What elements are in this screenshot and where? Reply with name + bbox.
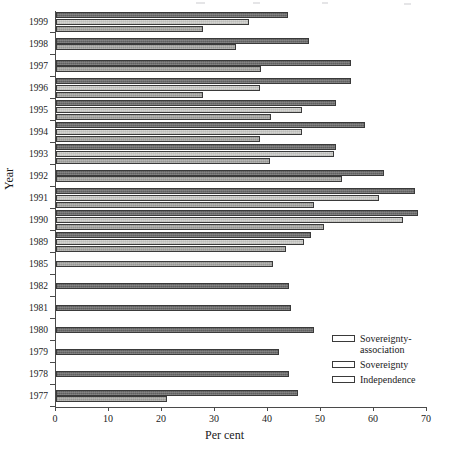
x-axis-title: Per cent	[0, 428, 449, 443]
x-axis-label-40: 40	[262, 413, 272, 424]
y-axis-tick	[50, 120, 55, 121]
bar-1990-indep	[56, 224, 324, 230]
y-axis-label-1979: 1979	[0, 347, 48, 357]
bar-1995-s-assoc	[56, 100, 336, 106]
x-axis-tick-40	[267, 407, 268, 411]
y-axis-tick	[50, 32, 55, 33]
y-axis-label-1997: 1997	[0, 61, 48, 71]
chart-legend: Sovereignty- associationSovereigntyIndep…	[332, 333, 448, 389]
x-axis-tick-30	[214, 407, 215, 411]
bar-1996-sov	[56, 85, 260, 91]
bar-1999-sov	[56, 19, 249, 25]
x-axis-tick-0	[55, 407, 56, 411]
y-axis-label-1981: 1981	[0, 303, 48, 313]
y-axis-label-1989: 1989	[0, 237, 48, 247]
bar-1985-indep	[56, 261, 273, 267]
x-axis-tick-70	[426, 407, 427, 411]
bar-1978-s-assoc	[56, 371, 289, 377]
bar-1990-sov	[56, 217, 403, 223]
y-axis-tick	[50, 208, 55, 209]
bar-1999-indep	[56, 26, 203, 32]
x-axis-tick-50	[320, 407, 321, 411]
legend-label-independence: Independence	[360, 374, 416, 385]
y-axis-label-1985: 1985	[0, 259, 48, 269]
y-axis-label-1977: 1977	[0, 391, 48, 401]
y-axis-tick	[50, 164, 55, 165]
legend-label-sovereignty-association: Sovereignty- association	[360, 333, 412, 355]
bar-1996-s-assoc	[56, 78, 351, 84]
bar-1995-indep	[56, 114, 271, 120]
y-axis-label-1990: 1990	[0, 215, 48, 225]
x-axis-label-50: 50	[315, 413, 325, 424]
x-axis-label-70: 70	[421, 413, 431, 424]
y-axis-tick	[50, 76, 55, 77]
bar-1977-indep	[56, 396, 167, 402]
y-axis-label-1999: 1999	[0, 17, 48, 27]
y-axis-tick	[50, 384, 55, 385]
bar-chart: 1999199819971996199519941993199219911990…	[0, 0, 449, 449]
y-axis-tick	[50, 340, 55, 341]
y-axis-label-1996: 1996	[0, 83, 48, 93]
bar-1992-s-assoc	[56, 170, 384, 176]
bar-1991-sov	[56, 195, 379, 201]
legend-item-sovereignty-association: Sovereignty- association	[332, 333, 448, 355]
y-axis-label-1982: 1982	[0, 281, 48, 291]
bar-1999-s-assoc	[56, 12, 288, 18]
bar-1993-sov	[56, 151, 334, 157]
y-axis-tick	[50, 252, 55, 253]
bar-1979-s-assoc	[56, 349, 279, 355]
scan-artifact	[322, 2, 328, 4]
legend-item-independence: Independence	[332, 374, 448, 385]
y-axis-tick	[50, 230, 55, 231]
y-axis-title: Year	[2, 168, 17, 190]
bar-1990-s-assoc	[56, 210, 418, 216]
legend-label-sovereignty: Sovereignty	[360, 359, 408, 370]
legend-item-sovereignty: Sovereignty	[332, 359, 448, 370]
bar-1992-indep	[56, 176, 342, 182]
bar-1997-s-assoc	[56, 60, 351, 66]
bar-1994-sov	[56, 129, 302, 135]
y-axis-tick	[50, 296, 55, 297]
y-axis-label-1995: 1995	[0, 105, 48, 115]
y-axis-label-1993: 1993	[0, 149, 48, 159]
bar-1991-s-assoc	[56, 188, 415, 194]
bar-1991-indep	[56, 202, 314, 208]
legend-swatch-sovereignty	[332, 361, 355, 368]
x-axis-label-60: 60	[368, 413, 378, 424]
y-axis-label-1978: 1978	[0, 369, 48, 379]
legend-swatch-independence	[332, 376, 355, 383]
legend-swatch-sovereignty-association	[332, 335, 355, 342]
y-axis-tick	[50, 186, 55, 187]
bar-1981-s-assoc	[56, 305, 291, 311]
bar-1994-indep	[56, 136, 260, 142]
y-axis-tick	[50, 274, 55, 275]
bar-1998-indep	[56, 44, 236, 50]
bar-1989-indep	[56, 246, 286, 252]
x-axis-label-10: 10	[103, 413, 113, 424]
bar-1998-s-assoc	[56, 38, 309, 44]
y-axis-tick	[50, 362, 55, 363]
x-axis-label-0: 0	[53, 413, 58, 424]
y-axis-tick	[50, 142, 55, 143]
bar-1982-s-assoc	[56, 283, 289, 289]
y-axis-label-1998: 1998	[0, 39, 48, 49]
y-axis-label-1994: 1994	[0, 127, 48, 137]
bar-1993-indep	[56, 158, 270, 164]
scan-artifact	[404, 3, 411, 5]
bar-1989-s-assoc	[56, 232, 311, 238]
x-axis-tick-60	[373, 407, 374, 411]
scan-artifact	[253, 2, 260, 4]
x-axis-tick-20	[161, 407, 162, 411]
bar-1977-s-assoc	[56, 390, 298, 396]
x-axis-line	[55, 407, 426, 408]
bar-1996-indep	[56, 92, 203, 98]
bar-1980-s-assoc	[56, 327, 314, 333]
bar-1995-sov	[56, 107, 302, 113]
y-axis-tick	[50, 98, 55, 99]
y-axis-tick	[50, 318, 55, 319]
x-axis-label-20: 20	[156, 413, 166, 424]
x-axis-tick-10	[108, 407, 109, 411]
bar-1993-s-assoc	[56, 144, 336, 150]
bar-1989-sov	[56, 239, 304, 245]
y-axis-label-1980: 1980	[0, 325, 48, 335]
